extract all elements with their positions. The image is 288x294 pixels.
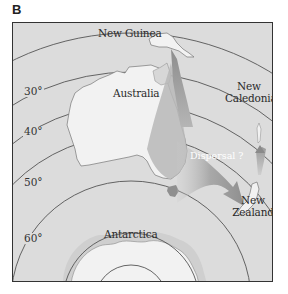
label-new-caledonia-line1: New: [225, 80, 273, 92]
label-new-caledonia: New Caledonia: [225, 80, 273, 104]
label-new-zealand-line2: Zealand: [231, 206, 273, 218]
label-antarctica: Antarctica: [104, 228, 157, 240]
latitude-label-50: 50°: [23, 177, 44, 188]
latitude-label-60: 60°: [23, 233, 44, 244]
panel-label: B: [12, 2, 21, 17]
latitude-label-40: 40°: [23, 126, 44, 137]
label-new-guinea: New Guinea: [98, 27, 161, 39]
latitude-label-30: 30°: [23, 86, 44, 97]
label-dispersal: Dispersal ?: [190, 150, 243, 161]
label-new-zealand-line1: New: [231, 194, 273, 206]
label-new-caledonia-line2: Caledonia: [225, 92, 273, 104]
map-frame: New Guinea Australia New Caledonia New Z…: [12, 22, 273, 282]
label-new-zealand: New Zealand: [231, 194, 273, 218]
label-australia: Australia: [113, 87, 159, 99]
